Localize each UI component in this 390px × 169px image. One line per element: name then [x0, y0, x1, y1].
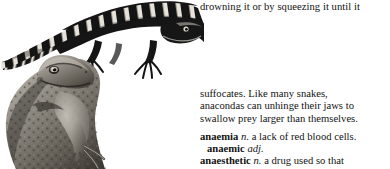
entry-part-of-speech: n. — [238, 131, 249, 142]
runon-text: drowning it or by squeezing it until it — [200, 1, 360, 12]
dictionary-entry: anaemic adj. — [200, 143, 390, 155]
dictionary-entry: anaemia n. a lack of red blood cells. — [200, 131, 390, 143]
entry-definition: a drug used so that — [261, 155, 344, 166]
runon-line: drowning it or by squeezing it until it — [200, 1, 390, 13]
illustration-artwork — [0, 0, 205, 169]
lizard-rear-leg — [77, 40, 103, 77]
continued-paragraph: suffocates. Like many snakes, anacondas … — [200, 88, 390, 125]
entry-headword: anaemia — [200, 131, 238, 142]
illustration-plate — [0, 0, 205, 169]
entry-part-of-speech: adj. — [245, 143, 264, 154]
text-column: suffocates. Like many snakes, anacondas … — [200, 88, 390, 168]
entry-list: anaemia n. a lack of red blood cells. an… — [200, 131, 390, 168]
lizard-front-leg — [135, 40, 161, 78]
entry-headword: anaesthetic — [200, 155, 251, 166]
paragraph-line: suffocates. Like many snakes, — [200, 88, 390, 100]
toad-head — [37, 55, 95, 89]
toad-forelimb — [67, 116, 104, 169]
dictionary-page: drowning it or by squeezing it until it … — [0, 0, 390, 169]
entry-part-of-speech: n. — [251, 155, 262, 166]
paragraph-line: swallow prey larger than themselves. — [200, 113, 390, 125]
lizard-figure — [0, 0, 205, 78]
paragraph-line: anacondas can unhinge their jaws to — [200, 100, 390, 112]
entry-headword: anaemic — [207, 143, 245, 154]
dictionary-entry: anaesthetic n. a drug used so that — [200, 155, 390, 167]
lizard-head — [160, 18, 204, 44]
toad-figure — [0, 50, 110, 169]
entry-definition: a lack of red blood cells. — [249, 131, 356, 142]
